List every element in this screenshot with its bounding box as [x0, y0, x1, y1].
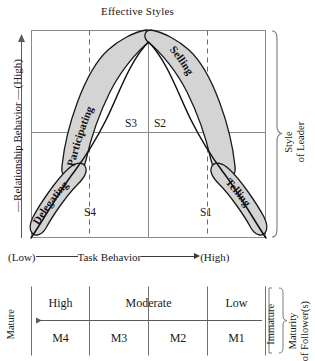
x-axis-rule-right [141, 256, 195, 257]
maturity-of-followers-label: Maturity of Follower(s) [287, 286, 311, 361]
y-axis-label-text: Relationship Behavior [11, 102, 23, 201]
y-axis-label: —Relationship Behavior —(High) [12, 31, 23, 241]
maturity-mature-label: Mature [6, 294, 17, 354]
blob-selling [145, 30, 235, 179]
brace-style-of-leader [272, 31, 282, 237]
maturity-cell-m2: M2 [170, 331, 187, 345]
y-axis-high-marker: (High) [11, 59, 23, 88]
x-axis-label-text: Task Behavior [78, 252, 142, 263]
maturity-cell-m4: M4 [52, 331, 69, 345]
maturity-top-high: High [49, 296, 73, 310]
maturity-brace-line1: Maturity [287, 313, 298, 350]
x-axis-high-marker: (High) [200, 252, 229, 263]
style-of-leader-line1: Style [283, 131, 294, 153]
maturity-brace-line2: of Follower(s) [299, 286, 311, 361]
x-axis-label: (Low)Task Behavior(High) [8, 251, 230, 263]
y-axis-dash: — [11, 201, 23, 212]
maturity-top-low: Low [226, 296, 248, 310]
x-axis-low-marker: (Low) [8, 252, 36, 263]
quadrant-label-s3: S3 [125, 117, 137, 129]
figure-title: Effective Styles [0, 6, 275, 17]
style-of-leader-line2: of Leader [295, 97, 307, 187]
quadrant-label-s2: S2 [154, 117, 166, 129]
style-of-leader-label: Style of Leader [283, 97, 307, 187]
maturity-cell-m1: M1 [228, 331, 245, 345]
quadrant-label-s4: S4 [84, 206, 96, 218]
x-axis-rule-left [36, 256, 78, 257]
x-axis-arrow-icon [194, 253, 200, 259]
situational-leadership-figure: Delegating Participating Selling Telling… [0, 0, 315, 361]
y-axis-dash2: — [11, 88, 23, 102]
brace-maturity-of-followers [279, 288, 287, 353]
maturity-immature-label: Immature [266, 293, 277, 355]
quadrant-label-s1: S1 [200, 206, 212, 218]
maturity-cell-m3: M3 [111, 331, 128, 345]
maturity-top-moderate: Moderate [126, 296, 172, 310]
